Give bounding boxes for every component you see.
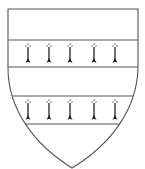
ermine-dot xyxy=(27,99,28,100)
ermine-dot xyxy=(95,101,96,102)
ermine-dot xyxy=(93,43,94,44)
ermine-dot xyxy=(91,101,92,102)
ermine-dot xyxy=(46,45,47,46)
ermine-dot xyxy=(116,45,117,46)
ermine-dot xyxy=(48,99,49,100)
ermine-dot xyxy=(91,45,92,46)
ermine-dot xyxy=(69,43,70,44)
ermine-dot xyxy=(25,101,26,102)
ermine-dot xyxy=(71,45,72,46)
ermine-dot xyxy=(114,99,115,100)
ermine-dot xyxy=(116,101,117,102)
ermine-dot xyxy=(27,43,28,44)
ermine-dot xyxy=(50,45,51,46)
ermine-dot xyxy=(71,101,72,102)
shield-outline xyxy=(8,9,138,168)
ermine-dot xyxy=(29,101,30,102)
ermine-dot xyxy=(25,45,26,46)
ermine-dot xyxy=(67,101,68,102)
ermine-dot xyxy=(112,45,113,46)
ermine-dot xyxy=(67,45,68,46)
ermine-dot xyxy=(48,43,49,44)
ermine-dot xyxy=(112,101,113,102)
ermine-dot xyxy=(95,45,96,46)
ermine-dot xyxy=(114,43,115,44)
heraldic-shield xyxy=(0,0,145,169)
ermine-dot xyxy=(93,99,94,100)
ermine-dot xyxy=(46,101,47,102)
ermine-dot xyxy=(69,99,70,100)
ermine-dot xyxy=(50,101,51,102)
ermine-dot xyxy=(29,45,30,46)
